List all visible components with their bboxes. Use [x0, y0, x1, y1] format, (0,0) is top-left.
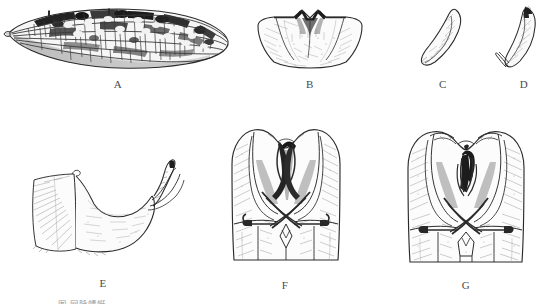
- panel-label-d: D: [511, 78, 537, 90]
- panel-b-sclerite: [250, 4, 370, 76]
- panel-label-f: F: [272, 279, 298, 291]
- panel-g-genitalia: [400, 120, 532, 272]
- panel-label-g: G: [453, 279, 479, 291]
- panel-label-a: A: [105, 78, 131, 90]
- panel-e-abdominal-segment: [28, 152, 188, 268]
- panel-f-genitalia: [222, 120, 350, 272]
- figure-caption: 图 网脉蜻蜓: [58, 297, 106, 304]
- panel-label-e: E: [90, 277, 116, 289]
- figure-plate: A: [0, 0, 548, 304]
- panel-c-appendage: [415, 6, 473, 72]
- panel-label-c: C: [430, 78, 456, 90]
- panel-d-appendage: [495, 4, 548, 74]
- panel-a-forewing: [4, 2, 236, 80]
- panel-label-b: B: [297, 78, 323, 90]
